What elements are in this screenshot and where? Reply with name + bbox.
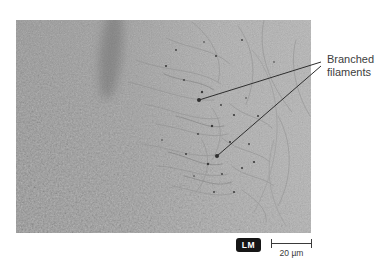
micrograph-texture	[16, 20, 311, 233]
scale-bar-label: 20 µm	[269, 248, 314, 258]
micrograph-image	[16, 20, 311, 233]
micrograph-type-badge: LM	[236, 238, 261, 252]
annotation-label: Branched filaments	[327, 53, 387, 79]
scale-bar	[271, 239, 312, 248]
scale-bar-right-tick	[311, 239, 312, 248]
scale-bar-line	[271, 243, 312, 244]
figure-canvas: Branched filaments LM 20 µm	[0, 0, 390, 274]
